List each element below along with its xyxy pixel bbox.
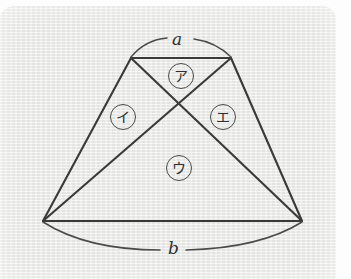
- diagonal-top-left-to-bottom-right: [131, 58, 302, 221]
- side-label-a: a: [172, 31, 182, 48]
- region-label-top: ア: [168, 63, 194, 89]
- side-label-b: b: [168, 240, 179, 257]
- top-measure-arc-left: [131, 38, 167, 57]
- top-measure-arc-right: [194, 39, 231, 57]
- diagram-screenshot: a b ア イ ウ エ: [0, 0, 351, 279]
- bottom-measure-arc-left: [43, 222, 160, 250]
- region-label-right: エ: [210, 104, 236, 130]
- region-label-left: イ: [110, 104, 136, 130]
- diagonal-top-right-to-bottom-left: [43, 58, 231, 221]
- bottom-measure-arc-right: [186, 222, 302, 250]
- region-label-bottom: ウ: [166, 155, 192, 181]
